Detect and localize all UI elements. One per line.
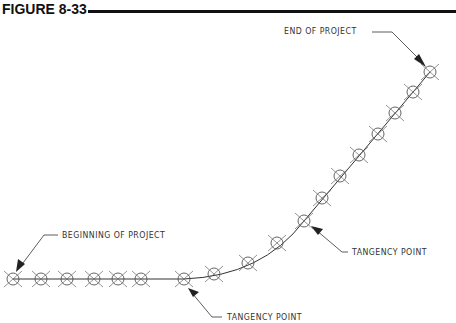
station-marker-icon xyxy=(313,190,331,206)
tangency-point-lower-label: TANGENCY POINT xyxy=(227,312,302,322)
station-marker-icon xyxy=(295,213,313,229)
station-marker-icon xyxy=(350,147,368,163)
station-marker-icon xyxy=(85,271,103,287)
leader-beginning-of-project xyxy=(16,235,58,272)
station-marker-icon xyxy=(369,126,387,142)
station-marker-icon xyxy=(132,271,150,287)
station-marker-icon xyxy=(421,64,439,80)
leader-tangency-upper xyxy=(311,226,348,252)
station-marker-icon xyxy=(205,266,223,282)
end-of-project-label: END OF PROJECT xyxy=(284,26,357,36)
alignment-diagram xyxy=(0,0,456,323)
station-marker-icon xyxy=(109,271,127,287)
station-marker-icon xyxy=(175,271,193,287)
beginning-of-project-label: BEGINNING OF PROJECT xyxy=(62,230,165,240)
station-marker-icon xyxy=(32,271,50,287)
station-marker-icon xyxy=(386,105,404,121)
station-marker-icon xyxy=(404,84,422,100)
leader-end-of-project xyxy=(372,32,426,67)
tangency-point-upper-label: TANGENCY POINT xyxy=(352,247,427,257)
station-marker-icon xyxy=(239,255,257,271)
station-marker-icon xyxy=(4,271,22,287)
station-marker-icon xyxy=(268,235,286,251)
leader-tangency-lower xyxy=(188,288,222,317)
station-marker-icon xyxy=(58,271,76,287)
station-marker-icon xyxy=(331,168,349,184)
